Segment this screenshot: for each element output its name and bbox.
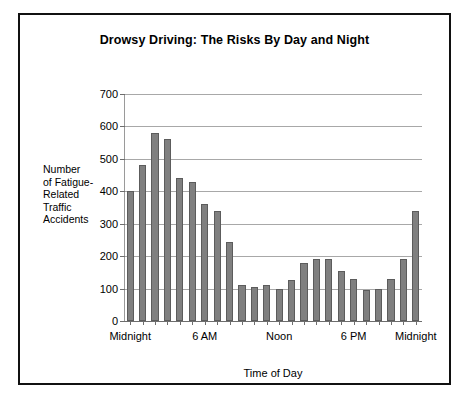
bar: [276, 289, 283, 321]
y-axis-title-line: Number: [43, 163, 119, 176]
bar: [127, 191, 134, 321]
y-tick-label: 700: [100, 88, 118, 100]
y-axis-line: [124, 94, 125, 321]
bar: [263, 285, 270, 321]
gridline: [124, 321, 422, 322]
x-tick-mark: [329, 321, 330, 325]
y-tick-label: 0: [112, 315, 118, 327]
bar: [412, 211, 419, 321]
x-tick-mark: [143, 321, 144, 325]
x-tick-mark: [341, 321, 342, 325]
y-tick-mark: [120, 224, 125, 225]
x-tick-mark: [416, 321, 417, 325]
x-tick-mark: [279, 321, 280, 325]
bar: [325, 259, 332, 321]
x-tick-mark: [167, 321, 168, 325]
x-tick-label: 6 PM: [341, 330, 367, 342]
y-tick-mark: [120, 321, 125, 322]
bar: [164, 139, 171, 321]
x-tick-label: Midnight: [109, 330, 151, 342]
y-tick-label: 200: [100, 250, 118, 262]
x-tick-label: Noon: [266, 330, 292, 342]
plot-area: 0100200300400500600700 Midnight6 AMNoon6…: [124, 94, 422, 321]
x-tick-mark: [267, 321, 268, 325]
bar: [151, 133, 158, 321]
bar: [363, 290, 370, 321]
bar: [350, 279, 357, 321]
bar: [313, 259, 320, 321]
bar: [238, 285, 245, 321]
bar: [387, 279, 394, 321]
bar: [226, 242, 233, 321]
x-tick-mark: [230, 321, 231, 325]
x-tick-mark: [242, 321, 243, 325]
x-tick-mark: [304, 321, 305, 325]
gridline: [124, 94, 422, 95]
gridline: [124, 126, 422, 127]
x-tick-mark: [192, 321, 193, 325]
bar: [300, 263, 307, 321]
bar: [189, 182, 196, 321]
y-tick-mark: [120, 191, 125, 192]
x-tick-mark: [130, 321, 131, 325]
x-tick-mark: [155, 321, 156, 325]
y-tick-label: 300: [100, 218, 118, 230]
bar: [338, 271, 345, 321]
x-tick-mark: [354, 321, 355, 325]
y-tick-mark: [120, 256, 125, 257]
x-tick-label: Midnight: [395, 330, 437, 342]
x-tick-label: 6 AM: [192, 330, 217, 342]
bar: [251, 287, 258, 321]
y-tick-label: 100: [100, 283, 118, 295]
x-tick-mark: [391, 321, 392, 325]
bar: [201, 204, 208, 321]
x-tick-mark: [205, 321, 206, 325]
y-tick-mark: [120, 289, 125, 290]
x-axis-title: Time of Day: [124, 367, 422, 379]
bar: [288, 280, 295, 321]
x-tick-mark: [379, 321, 380, 325]
x-tick-mark: [254, 321, 255, 325]
x-tick-mark: [316, 321, 317, 325]
x-tick-mark: [403, 321, 404, 325]
bar: [375, 289, 382, 321]
y-tick-mark: [120, 159, 125, 160]
bar: [176, 178, 183, 321]
y-tick-label: 500: [100, 153, 118, 165]
chart-title: Drowsy Driving: The Risks By Day and Nig…: [20, 33, 449, 47]
bar: [400, 259, 407, 321]
x-tick-mark: [292, 321, 293, 325]
y-tick-label: 400: [100, 185, 118, 197]
y-axis-title-line: Traffic: [43, 201, 119, 214]
x-tick-mark: [180, 321, 181, 325]
x-tick-mark: [366, 321, 367, 325]
chart-frame: Drowsy Driving: The Risks By Day and Nig…: [18, 13, 451, 385]
bar: [214, 211, 221, 321]
y-tick-mark: [120, 94, 125, 95]
x-tick-mark: [217, 321, 218, 325]
y-tick-mark: [120, 126, 125, 127]
y-tick-label: 600: [100, 120, 118, 132]
bar: [139, 165, 146, 321]
